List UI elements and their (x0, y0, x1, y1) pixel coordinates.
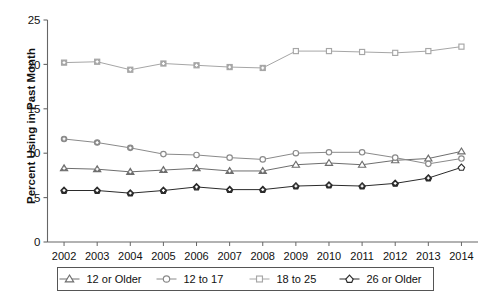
data-point-square (95, 59, 100, 64)
series-18-to-25 (62, 44, 464, 72)
chart-legend: 12 or Older12 to 1718 to 2526 or Older (58, 268, 434, 291)
data-point-diamond (260, 186, 266, 192)
data-point-circle (392, 155, 397, 160)
data-point-diamond (193, 184, 199, 190)
data-point-circle (94, 140, 99, 145)
x-tick-label: 2005 (151, 250, 175, 262)
data-point-circle (128, 145, 133, 150)
data-point-square (257, 276, 263, 282)
data-point-square (194, 63, 199, 68)
data-point-diamond (61, 187, 67, 193)
data-point-circle (61, 136, 66, 141)
data-point-square (161, 61, 166, 66)
legend-label: 18 to 25 (277, 273, 317, 285)
data-point-diamond (392, 180, 398, 186)
data-point-triangle (193, 165, 200, 171)
data-point-diamond (425, 175, 431, 181)
data-point-diamond (127, 190, 133, 196)
series-12-to-17 (61, 136, 464, 166)
legend-label: 26 or Older (367, 273, 422, 285)
x-tick-label: 2013 (416, 250, 440, 262)
y-axis-title: Percent Using in Past Month (25, 21, 37, 231)
data-point-square (128, 67, 133, 72)
data-point-square (260, 65, 265, 70)
x-tick-label: 2004 (118, 250, 142, 262)
data-point-circle (326, 150, 331, 155)
data-point-square (459, 44, 464, 49)
data-point-square (62, 60, 67, 65)
data-point-circle (163, 276, 169, 282)
data-point-circle (426, 161, 431, 166)
data-point-diamond (94, 187, 100, 193)
data-point-diamond (293, 183, 299, 189)
chart-figure: Percent Using in Past Month 0510152025 2… (0, 0, 491, 307)
legend-label: 12 or Older (87, 273, 142, 285)
data-series-group (60, 44, 465, 196)
x-tick-label: 2011 (350, 250, 374, 262)
x-axis-ticks: 2002200320042005200620072008200920102011… (52, 242, 474, 262)
data-point-circle (194, 152, 199, 157)
x-tick-label: 2008 (251, 250, 275, 262)
x-tick-label: 2003 (85, 250, 109, 262)
data-point-circle (227, 155, 232, 160)
data-point-square (360, 49, 365, 54)
data-point-triangle (458, 148, 465, 154)
data-point-triangle (60, 165, 67, 171)
legend-label: 12 to 17 (184, 273, 224, 285)
data-point-circle (359, 150, 364, 155)
data-point-triangle (325, 160, 332, 166)
chart-axes (48, 20, 479, 242)
data-point-circle (260, 157, 265, 162)
x-tick-label: 2014 (449, 250, 473, 262)
x-tick-label: 2002 (52, 250, 76, 262)
data-point-diamond (359, 183, 365, 189)
x-tick-label: 2007 (217, 250, 241, 262)
data-point-diamond (226, 186, 232, 192)
x-tick-label: 2010 (317, 250, 341, 262)
line-chart-canvas: 0510152025 20022003200420052006200720082… (0, 0, 491, 307)
x-tick-label: 2012 (383, 250, 407, 262)
y-tick-label: 0 (34, 236, 40, 248)
data-point-square (393, 50, 398, 55)
x-tick-label: 2009 (284, 250, 308, 262)
data-point-circle (293, 150, 298, 155)
data-point-circle (459, 156, 464, 161)
x-tick-label: 2006 (184, 250, 208, 262)
data-point-square (426, 49, 431, 54)
data-point-square (293, 49, 298, 54)
data-point-diamond (326, 182, 332, 188)
data-point-square (227, 65, 232, 70)
data-point-square (326, 49, 331, 54)
data-point-diamond (160, 187, 166, 193)
data-point-circle (161, 151, 166, 156)
data-point-diamond (458, 164, 464, 170)
